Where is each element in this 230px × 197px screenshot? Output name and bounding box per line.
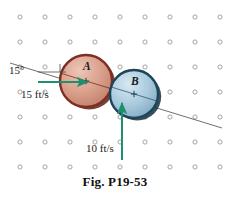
grid-dot (143, 40, 147, 44)
grid-dot (43, 165, 47, 169)
grid-dot (68, 15, 72, 19)
grid-dot (218, 15, 222, 19)
body-b-label: B (131, 75, 139, 87)
grid-dot (18, 140, 22, 144)
grid-dot (193, 15, 197, 19)
grid-dot (93, 115, 97, 119)
grid-dot (118, 15, 122, 19)
grid-dot (68, 165, 72, 169)
grid-dot (68, 115, 72, 119)
grid-dot (93, 15, 97, 19)
grid-dot (118, 165, 122, 169)
grid-dot (143, 165, 147, 169)
grid-dot (193, 165, 197, 169)
grid-dot (68, 140, 72, 144)
physics-figure: 15° 15 ft/s 10 ft/s A B Fig. P19-53 (0, 0, 230, 197)
grid-dot (43, 115, 47, 119)
velocity-a-label: 15 ft/s (21, 88, 49, 100)
grid-dot (193, 140, 197, 144)
grid-dot (193, 65, 197, 69)
grid-dot (168, 115, 172, 119)
grid-dot (68, 40, 72, 44)
grid-dot (143, 65, 147, 69)
grid-dot (118, 65, 122, 69)
grid-dot (43, 140, 47, 144)
grid-dot (168, 165, 172, 169)
grid-dot (143, 140, 147, 144)
grid-dot (43, 40, 47, 44)
grid-dot (218, 165, 222, 169)
body-a-label: A (83, 60, 91, 72)
angle-label: 15° (9, 64, 24, 76)
grid-dot (168, 15, 172, 19)
grid-dot (18, 115, 22, 119)
grid-dot (168, 65, 172, 69)
grid-dot (18, 165, 22, 169)
grid-dot (93, 165, 97, 169)
grid-dot (168, 140, 172, 144)
grid-dot (218, 65, 222, 69)
grid-dot (168, 40, 172, 44)
grid-dot (43, 65, 47, 69)
grid-dot (218, 115, 222, 119)
grid-dot (143, 15, 147, 19)
grid-dot (218, 90, 222, 94)
grid-dot (193, 40, 197, 44)
grid-dot (193, 115, 197, 119)
velocity-b-label: 10 ft/s (86, 142, 114, 154)
grid-dot (193, 90, 197, 94)
grid-dot (218, 140, 222, 144)
grid-dot (43, 15, 47, 19)
grid-dot (18, 40, 22, 44)
grid-dot (93, 40, 97, 44)
grid-dot (118, 40, 122, 44)
grid-dot (168, 90, 172, 94)
grid-dot (218, 40, 222, 44)
figure-caption: Fig. P19-53 (0, 174, 230, 190)
grid-dot (18, 15, 22, 19)
